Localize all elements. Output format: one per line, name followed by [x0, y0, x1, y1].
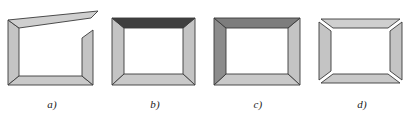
figure-b-label: b) — [105, 94, 205, 114]
frame-b-right-stile — [183, 18, 195, 85]
frame-c-bottom-rail — [214, 74, 300, 85]
frame-a-top-rail-slanted — [8, 11, 98, 28]
figure-d-label: d) — [312, 94, 412, 114]
frame-a-bottom-rail — [8, 76, 93, 85]
figure-panel: a) b) — [0, 0, 417, 122]
figure-a: a) — [2, 6, 102, 118]
frame-c-left-stile-dark — [214, 18, 226, 85]
figure-c-drawing — [208, 6, 308, 94]
frame-d-bottom-rail — [321, 74, 400, 83]
figure-b-drawing — [105, 6, 205, 94]
frame-c-right-stile — [288, 18, 300, 85]
figure-a-label: a) — [2, 94, 102, 114]
frame-d-left-stile — [319, 22, 331, 80]
frame-c-top-rail-dark — [214, 18, 300, 28]
frame-a-left-stile — [8, 20, 19, 85]
frame-d-top-rail — [321, 19, 400, 28]
frame-b-left-stile — [112, 18, 124, 85]
figure-a-drawing — [2, 6, 102, 94]
frame-b-bottom-rail — [112, 74, 195, 85]
figure-d-drawing — [312, 6, 412, 94]
frame-b-top-rail-dark — [112, 18, 195, 28]
figure-c-label: c) — [208, 94, 308, 114]
figure-d: d) — [312, 6, 412, 118]
figure-b: b) — [105, 6, 205, 118]
frame-d-right-stile — [390, 22, 402, 80]
figure-c: c) — [208, 6, 308, 118]
frame-a-right-stile — [82, 30, 93, 85]
